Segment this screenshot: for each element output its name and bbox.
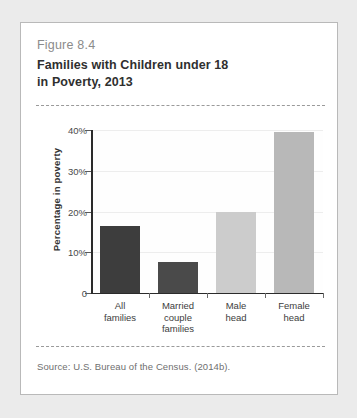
- figure-card: Figure 8.4 Families with Children under …: [20, 22, 338, 395]
- bar: [100, 226, 140, 293]
- bars-layer: [91, 130, 323, 293]
- figure-title-line-2: in Poverty, 2013: [37, 74, 317, 91]
- x-axis-label-line: All: [89, 300, 151, 312]
- bar: [274, 132, 314, 293]
- figure-title: Families with Children under 18 in Pover…: [37, 57, 317, 90]
- source-note: Source: U.S. Bureau of the Census. (2014…: [37, 361, 230, 372]
- divider-top: [36, 105, 325, 106]
- y-axis-tick-mark: [85, 293, 91, 294]
- y-axis-tick-mark: [85, 252, 91, 253]
- y-axis-title: Percentage in poverty: [51, 125, 62, 275]
- bar-chart: Percentage in poverty 010%20%30%40%Allfa…: [31, 118, 331, 340]
- x-axis-tick-mark: [265, 293, 266, 298]
- x-axis-category-label: Malehead: [205, 300, 267, 323]
- x-axis-tick-mark: [149, 293, 150, 298]
- x-axis-label-line: couple: [147, 312, 209, 324]
- y-axis-tick-mark: [85, 212, 91, 213]
- divider-bottom: [36, 346, 325, 347]
- bar: [158, 262, 198, 293]
- x-axis-label-line: Married: [147, 300, 209, 312]
- x-axis-category-label: Femalehead: [263, 300, 325, 323]
- bar: [216, 212, 256, 293]
- page-background: Figure 8.4 Families with Children under …: [0, 0, 357, 418]
- x-axis-category-label: Marriedcouplefamilies: [147, 300, 209, 335]
- x-axis-tick-mark: [323, 293, 324, 298]
- x-axis-label-line: head: [263, 312, 325, 324]
- x-axis-category-label: Allfamilies: [89, 300, 151, 323]
- figure-number: Figure 8.4: [37, 38, 95, 52]
- x-axis-label-line: Female: [263, 300, 325, 312]
- x-axis-label-line: Male: [205, 300, 267, 312]
- x-axis-tick-mark: [207, 293, 208, 298]
- figure-title-line-1: Families with Children under 18: [37, 57, 317, 74]
- x-axis-label-line: head: [205, 312, 267, 324]
- y-axis-tick-mark: [85, 130, 91, 131]
- x-axis-label-line: families: [147, 323, 209, 335]
- y-axis-tick-mark: [85, 171, 91, 172]
- x-axis-label-line: families: [89, 312, 151, 324]
